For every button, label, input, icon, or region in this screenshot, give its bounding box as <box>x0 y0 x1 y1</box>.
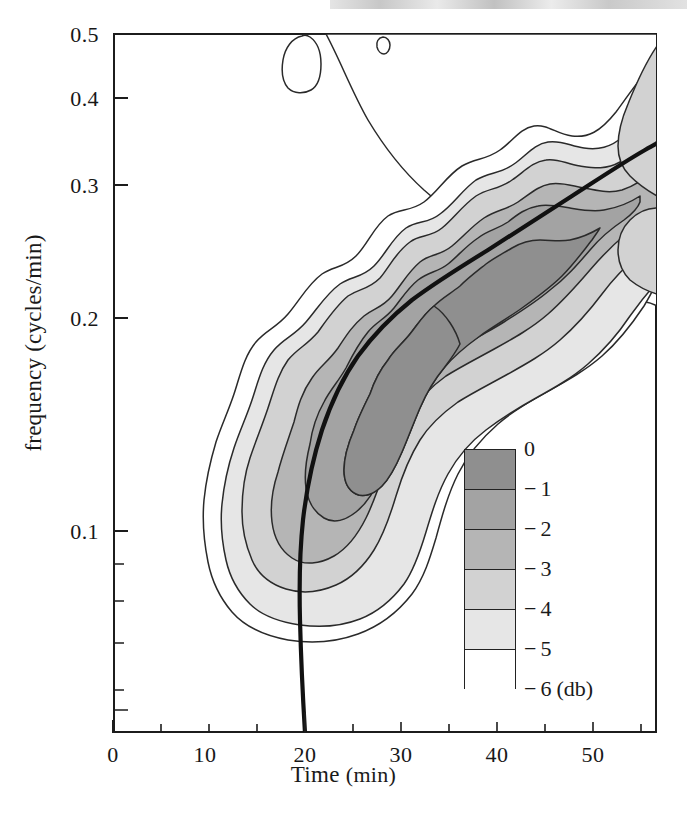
legend-swatch-stack <box>464 449 516 689</box>
legend-swatch-5 <box>465 650 515 690</box>
y-tick-label: 0.1 <box>47 519 99 545</box>
legend-swatch-1 <box>465 490 515 530</box>
legend-label-1: −1 <box>524 478 551 500</box>
x-axis-title: Time (min) <box>0 762 687 788</box>
legend-swatch-4 <box>465 610 515 650</box>
minus-sign: − <box>524 638 536 660</box>
minus-sign: − <box>524 518 536 540</box>
y-tick-label: 0.4 <box>47 86 99 112</box>
legend-label-5: −5 <box>524 638 551 660</box>
page-edge-artifact <box>330 0 687 9</box>
legend-label-6: −6(db) <box>524 678 593 700</box>
legend-swatch-0 <box>465 450 515 490</box>
legend-label-value: 5 <box>540 636 551 661</box>
x-axis-title-main: Time <box>291 762 340 787</box>
minus-sign: − <box>524 598 536 620</box>
legend-label-value: 0 <box>524 436 535 461</box>
legend-label-2: −2 <box>524 518 551 540</box>
minus-sign: − <box>524 478 536 500</box>
legend-label-value: 6 <box>540 676 551 701</box>
legend-label-value: 4 <box>540 596 551 621</box>
legend-label-value: 3 <box>540 556 551 581</box>
figure-contour-spectrogram: 0.5 0.4 0.3 0.2 0.1 0 10 20 30 40 50 Tim… <box>0 0 687 816</box>
minus-sign: − <box>524 558 536 580</box>
legend-label-3: −3 <box>524 558 551 580</box>
legend-swatch-3 <box>465 570 515 610</box>
legend-label-value: 1 <box>540 476 551 501</box>
legend-unit: (db) <box>556 676 593 701</box>
y-tick-label: 0.2 <box>47 306 99 332</box>
y-axis-title: frequency (cycles/min) <box>21 113 47 573</box>
legend-label-value: 2 <box>540 516 551 541</box>
y-tick-label: 0.5 <box>47 22 99 48</box>
legend-label-stack: 0 −1 −2 −3 −4 −5 −6(db) <box>524 435 664 705</box>
legend-label-0: 0 <box>524 438 535 460</box>
minus-sign: − <box>524 678 536 700</box>
legend-label-4: −4 <box>524 598 551 620</box>
legend-swatch-2 <box>465 530 515 570</box>
y-tick-label: 0.3 <box>47 173 99 199</box>
x-axis-title-unit: (min) <box>346 762 396 787</box>
